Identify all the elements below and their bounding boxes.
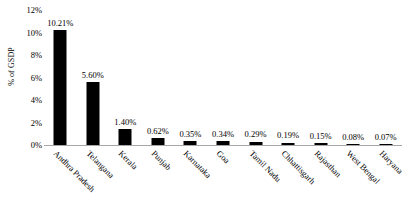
bar xyxy=(184,141,197,145)
x-axis-category-label: Goa xyxy=(215,149,231,165)
y-axis-tick-labels: 0%2%4%6%8%10%12% xyxy=(18,0,42,205)
x-axis-label-slot: Goa xyxy=(207,147,240,205)
bar-value-label: 0.62% xyxy=(147,127,169,136)
y-axis-tick-label: 12% xyxy=(18,6,42,15)
bar xyxy=(86,82,99,145)
bar xyxy=(314,143,327,145)
bar-group: 1.40% xyxy=(109,10,142,145)
y-axis-tick-label: 0% xyxy=(18,141,42,150)
bar-value-label: 5.60% xyxy=(82,71,104,80)
x-axis-label-slot: Tamil Nadu xyxy=(239,147,272,205)
bar-value-label: 0.34% xyxy=(212,130,234,139)
bar xyxy=(54,30,67,145)
bar xyxy=(282,143,295,145)
x-axis-category-labels: Andhra PradeshTelanganaKeralaPunjabKarna… xyxy=(44,147,402,205)
bar-group: 5.60% xyxy=(77,10,110,145)
bar-group: 0.62% xyxy=(142,10,175,145)
bar-chart: % of GSDP 0%2%4%6%8%10%12% 10.21%5.60%1.… xyxy=(0,0,414,205)
x-axis-label-slot: West Bengal xyxy=(337,147,370,205)
bar-group: 10.21% xyxy=(44,10,77,145)
bar xyxy=(379,144,392,145)
bar xyxy=(216,141,229,145)
y-axis-tick-label: 10% xyxy=(18,28,42,37)
x-axis-label-slot: Punjab xyxy=(142,147,175,205)
x-axis-label-slot: Chhattisgarh xyxy=(272,147,305,205)
x-axis-label-slot: Kerala xyxy=(109,147,142,205)
bar-value-label: 1.40% xyxy=(114,118,136,127)
bar-group: 0.07% xyxy=(369,10,402,145)
bar-group: 0.35% xyxy=(174,10,207,145)
y-axis-tick-label: 4% xyxy=(18,96,42,105)
bar-group: 0.08% xyxy=(337,10,370,145)
bar-value-label: 0.07% xyxy=(375,133,397,142)
bar xyxy=(151,138,164,145)
x-axis-label-slot: Andhra Pradesh xyxy=(44,147,77,205)
bar-value-label: 0.19% xyxy=(277,131,299,140)
y-axis-title: % of GSDP xyxy=(7,32,16,102)
bar-value-label: 0.35% xyxy=(179,130,201,139)
y-axis-tick-label: 2% xyxy=(18,118,42,127)
bar-group: 0.29% xyxy=(239,10,272,145)
bar xyxy=(347,144,360,145)
x-axis-category-label: Punjab xyxy=(150,149,173,172)
bar-value-label: 0.15% xyxy=(310,132,332,141)
y-axis-tick-label: 8% xyxy=(18,51,42,60)
bar-group: 0.34% xyxy=(207,10,240,145)
bar-value-label: 0.08% xyxy=(342,133,364,142)
bar-group: 0.19% xyxy=(272,10,305,145)
plot-area: 10.21%5.60%1.40%0.62%0.35%0.34%0.29%0.19… xyxy=(44,10,402,145)
bar-value-label: 10.21% xyxy=(47,19,73,28)
x-axis-label-slot: Rajasthan xyxy=(304,147,337,205)
x-axis-category-label: Kerala xyxy=(117,149,139,171)
bar xyxy=(249,142,262,145)
x-axis-label-slot: Karnataka xyxy=(174,147,207,205)
bar xyxy=(119,129,132,145)
x-axis-category-label: Haryana xyxy=(378,149,404,175)
bar-value-label: 0.29% xyxy=(245,130,267,139)
x-axis-label-slot: Haryana xyxy=(369,147,402,205)
y-axis-tick-label: 6% xyxy=(18,73,42,82)
x-axis-label-slot: Telangana xyxy=(77,147,110,205)
bar-group: 0.15% xyxy=(304,10,337,145)
